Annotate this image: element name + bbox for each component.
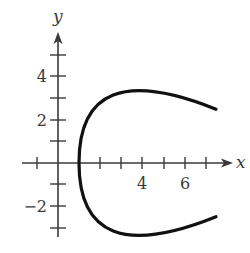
x-tick-label-6: 6 <box>180 174 190 193</box>
x-axis-label: x <box>236 152 246 172</box>
y-axis-label: y <box>52 6 63 26</box>
y-tick-label-4: 4 <box>37 67 47 86</box>
y-tick-label-neg2: −2 <box>23 197 47 216</box>
x-tick-label-4: 4 <box>137 174 147 193</box>
y-tick-label-2: 2 <box>37 111 47 130</box>
parabola-plot: 4 6 4 2 −2 x y <box>0 0 250 253</box>
